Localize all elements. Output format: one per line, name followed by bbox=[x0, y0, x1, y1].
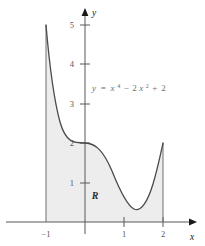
y-tick-label-4: 4 bbox=[70, 59, 75, 69]
x-tick-label-neg1: −1 bbox=[41, 229, 50, 239]
y-tick-label-2: 2 bbox=[70, 138, 74, 148]
y-axis-label: y bbox=[91, 8, 97, 18]
shaded-region-R bbox=[46, 25, 163, 222]
function-plot: 5 4 3 2 1 −1 1 2 y x R y = x 4 − 2 x 2 +… bbox=[0, 0, 205, 246]
equation-term3: 2 bbox=[161, 83, 166, 93]
y-tick-label-5: 5 bbox=[70, 20, 74, 30]
equation-term1-exponent: 4 bbox=[117, 82, 120, 89]
x-axis-arrow-icon bbox=[189, 219, 197, 226]
x-tick-label-2: 2 bbox=[161, 229, 165, 239]
equation-term2-base: x bbox=[138, 83, 143, 93]
y-tick-label-3: 3 bbox=[70, 99, 74, 109]
y-tick-label-1: 1 bbox=[70, 178, 74, 188]
figure-container: 5 4 3 2 1 −1 1 2 y x R y = x 4 − 2 x 2 +… bbox=[0, 0, 205, 246]
x-axis-label: x bbox=[189, 232, 195, 242]
equation-term1-base: x bbox=[110, 83, 115, 93]
region-label-R: R bbox=[91, 190, 99, 201]
equation-plus: + bbox=[152, 83, 157, 93]
equation-minus: − bbox=[124, 83, 129, 93]
equation-term2-exponent: 2 bbox=[146, 82, 149, 89]
function-equation-label: y = x 4 − 2 x 2 + 2 bbox=[91, 82, 166, 94]
x-tick-label-1: 1 bbox=[122, 229, 126, 239]
y-axis-arrow-icon bbox=[82, 8, 89, 16]
equation-equals: = bbox=[101, 83, 106, 93]
equation-lhs: y bbox=[91, 83, 96, 93]
equation-term2-coefficient: 2 bbox=[132, 83, 137, 93]
